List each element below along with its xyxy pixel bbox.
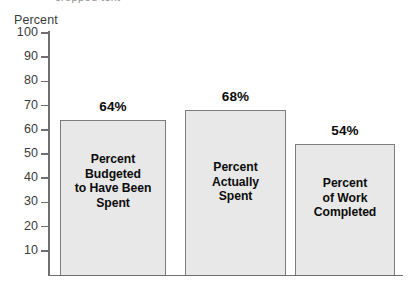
y-axis-tick-label: 50 (0, 146, 38, 160)
y-axis-tick-label: 70 (0, 98, 38, 112)
bar-chart: cropped text Percent 1009080706050403020… (0, 0, 414, 294)
y-axis-tick-label: 40 (0, 170, 38, 184)
y-axis-tick (41, 81, 49, 83)
plot-area: 100908070605040302010 64%PercentBudgeted… (0, 0, 414, 294)
y-axis-tick-label: 80 (0, 73, 38, 87)
bar-category-label-line: Spent (185, 189, 286, 204)
y-axis-tick (41, 105, 49, 107)
y-axis-tick (41, 32, 49, 34)
bar-value-label: 64% (60, 99, 166, 114)
y-axis-tick-label: 90 (0, 49, 38, 63)
y-axis-tick-label: 30 (0, 194, 38, 208)
y-axis-tick (41, 202, 49, 204)
y-axis-tick (41, 177, 49, 179)
bar-category-label-line: Percent (185, 160, 286, 175)
y-axis-tick (41, 56, 49, 58)
bar-category-label: PercentBudgetedto Have BeenSpent (60, 152, 166, 210)
y-axis-tick-label: 60 (0, 122, 38, 136)
bar-category-label-line: Percent (295, 176, 395, 191)
bar-category-label-line: of Work (295, 191, 395, 206)
bar-category-label-line: to Have Been (60, 181, 166, 196)
bar-category-label-line: Percent (60, 152, 166, 167)
bar-category-label-line: Actually (185, 175, 286, 190)
bar-category-label-line: Completed (295, 205, 395, 220)
y-axis-tick (41, 250, 49, 252)
y-axis-tick (41, 153, 49, 155)
bar-value-label: 68% (185, 89, 286, 104)
y-axis-tick-label: 100 (0, 25, 38, 39)
bar-category-label-line: Budgeted (60, 167, 166, 182)
bar-value-label: 54% (295, 123, 395, 138)
bar-category-label-line: Spent (60, 196, 166, 211)
bar-category-label: PercentActuallySpent (185, 160, 286, 204)
y-axis-tick (41, 226, 49, 228)
y-axis-tick (41, 129, 49, 131)
y-axis-tick-label: 20 (0, 219, 38, 233)
y-axis-tick-label: 10 (0, 243, 38, 257)
bar-category-label: Percentof WorkCompleted (295, 176, 395, 220)
